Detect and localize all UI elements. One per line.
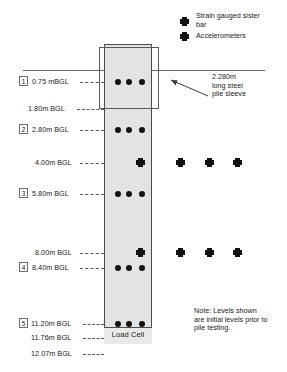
pile-instrumentation-diagram: Load Cell Strain gauged sister bar Accel…	[0, 0, 287, 372]
level-leader-1	[80, 82, 104, 83]
strain-gauge-marker	[126, 191, 132, 197]
level-leader-8	[83, 324, 104, 325]
level-label-2: 1.80m BGL	[28, 104, 65, 113]
strain-gauge-marker	[115, 127, 121, 133]
level-leader-7	[80, 268, 104, 269]
level-label-4: 4.00m BGL	[35, 158, 72, 167]
strain-gauge-marker	[126, 127, 132, 133]
level-leader-4	[80, 163, 104, 164]
strain-gauge-marker	[115, 191, 121, 197]
accelerometer-marker	[176, 248, 185, 257]
strain-gauge-marker	[139, 191, 145, 197]
accelerometer-marker	[233, 158, 242, 167]
level-label-1: 0.75 mBGL	[32, 77, 69, 86]
accelerometer-marker	[205, 158, 214, 167]
level-leader-9	[83, 338, 104, 339]
accelerometer-marker	[136, 158, 145, 167]
level-leader-2	[77, 109, 104, 110]
strain-gauge-marker	[139, 79, 145, 85]
strain-gauge-marker	[139, 127, 145, 133]
level-number-box-5: 5	[19, 318, 28, 328]
strain-gauge-marker	[115, 265, 121, 271]
strain-gauge-marker	[115, 321, 121, 327]
level-label-8: 11.20m BGL	[31, 319, 71, 328]
strain-gauge-marker	[115, 79, 121, 85]
level-leader-10	[83, 354, 104, 355]
level-label-10: 12.07m BGL	[31, 349, 72, 358]
strain-gauge-marker	[139, 321, 145, 327]
strain-gauge-marker	[126, 321, 132, 327]
accelerometer-marker	[136, 248, 145, 257]
accelerometer-marker	[176, 158, 185, 167]
level-number-box-2: 2	[19, 124, 28, 134]
level-label-3: 2.80m BGL	[32, 125, 69, 134]
level-label-5: 5.80m BGL	[32, 189, 69, 198]
accelerometer-marker	[205, 248, 214, 257]
level-number-box-4: 4	[19, 262, 28, 272]
level-label-7: 8.40m BGL	[32, 263, 69, 272]
level-number-box-1: 1	[19, 76, 28, 86]
level-label-6: 8.00m BGL	[35, 248, 72, 257]
strain-gauge-marker	[139, 265, 145, 271]
strain-gauge-marker	[126, 79, 132, 85]
sleeve-annotation-text: 2.280m long steel pile sleeve	[212, 73, 286, 99]
level-label-9: 11.76m BGL	[31, 333, 71, 342]
level-leader-3	[80, 130, 104, 131]
level-leader-6	[80, 253, 104, 254]
level-leader-5	[80, 194, 104, 195]
accelerometer-marker	[233, 248, 242, 257]
strain-gauge-marker	[126, 265, 132, 271]
level-number-box-3: 3	[19, 188, 28, 198]
note-text: Note: Levels shown are initial levels pr…	[194, 307, 284, 333]
